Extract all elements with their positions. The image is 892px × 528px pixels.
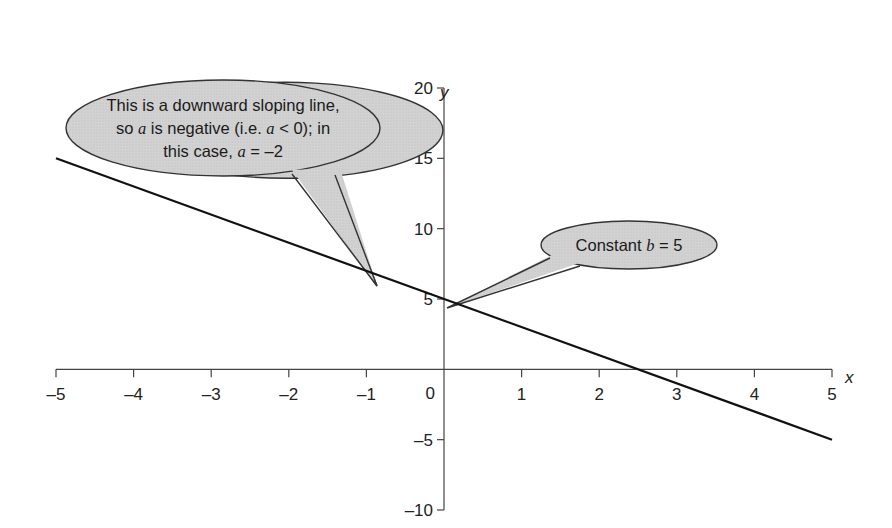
- x-tick-label: 2: [594, 385, 603, 404]
- line-chart: –5–4–3–2–112345–10–55101520 x y 0 This i…: [0, 0, 892, 528]
- x-tick-label: –4: [124, 385, 143, 404]
- y-tick-label: 20: [414, 79, 433, 98]
- x-tick-label: 5: [827, 385, 836, 404]
- intercept-callout: Constant b = 5: [447, 221, 717, 308]
- origin-label: 0: [426, 384, 435, 403]
- slope-callout-line-1: This is a downward sloping line,: [107, 96, 340, 114]
- y-tick-label: –5: [414, 431, 433, 450]
- y-tick-label: –10: [405, 501, 433, 520]
- slope-callout-line-2: so a is negative (i.e. a < 0); in: [116, 119, 330, 138]
- x-tick-label: –5: [47, 385, 66, 404]
- y-axis-label: y: [439, 83, 450, 102]
- x-tick-label: –1: [357, 385, 376, 404]
- x-tick-label: –3: [202, 385, 221, 404]
- slope-callout-line-3: this case, a = –2: [163, 142, 283, 161]
- y-tick-label: 10: [414, 220, 433, 239]
- x-tick-label: 3: [672, 385, 681, 404]
- x-tick-label: –2: [279, 385, 298, 404]
- x-tick-label: 4: [750, 385, 759, 404]
- x-tick-label: 1: [517, 385, 526, 404]
- x-axis-label: x: [844, 368, 854, 387]
- intercept-callout-text: Constant b = 5: [576, 236, 683, 255]
